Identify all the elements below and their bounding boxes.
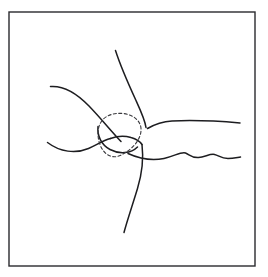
line-drawing-svg: [0, 0, 268, 277]
border-frame: [9, 12, 255, 266]
figure-container: [0, 0, 268, 277]
